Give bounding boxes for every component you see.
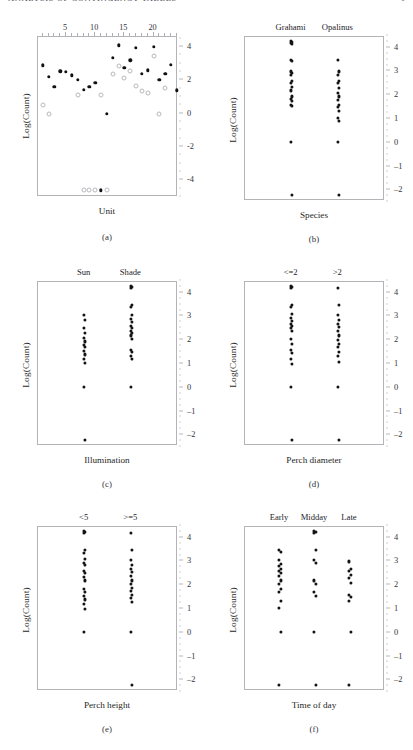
data-point — [336, 140, 339, 143]
y-minor-tick — [179, 524, 181, 525]
y-tick-label: –2 — [394, 430, 402, 439]
data-point — [84, 318, 87, 321]
data-point — [145, 90, 150, 95]
y-minor-tick — [386, 446, 388, 447]
data-point — [348, 684, 351, 687]
y-minor-tick — [179, 62, 181, 63]
data-point — [337, 360, 340, 363]
panel-row-1: 5101520 420-2-4 Log(Count) Unit (a) Grah… — [0, 10, 413, 255]
data-point — [47, 75, 50, 78]
panel-cell-e: <5>=5 43210–1–2 Log(Count) Perch height … — [0, 500, 206, 745]
plot-area-a — [37, 36, 177, 196]
y-minor-tick — [386, 404, 388, 405]
y-tick-mark — [179, 536, 183, 537]
data-point — [87, 188, 92, 193]
y-minor-tick — [386, 351, 388, 352]
y-minor-tick — [179, 309, 181, 310]
y-minor-tick — [386, 64, 388, 65]
data-point — [117, 44, 120, 47]
x-tick-mark — [147, 33, 148, 36]
y-minor-tick — [386, 613, 388, 614]
data-point — [70, 74, 73, 77]
data-point — [128, 69, 133, 74]
y-minor-tick — [386, 195, 388, 196]
x-tick-mark — [106, 33, 107, 36]
y-minor-tick — [386, 106, 388, 107]
x-tick-mark — [153, 32, 154, 36]
y-minor-tick — [179, 619, 181, 620]
data-point — [146, 69, 149, 72]
data-point — [291, 104, 294, 107]
y-minor-tick — [386, 625, 388, 626]
y-tick-label: 2 — [394, 90, 398, 99]
data-point — [84, 607, 87, 610]
y-minor-tick — [179, 643, 181, 644]
top-labels-b: GrahamiOpalinus — [244, 22, 384, 35]
x-tick-mark — [48, 33, 49, 36]
y-tick-label: 4 — [394, 532, 398, 541]
y-tick-label: 1 — [187, 604, 191, 613]
y-minor-tick — [179, 279, 181, 280]
y-minor-tick — [386, 333, 388, 334]
data-point — [279, 550, 282, 553]
data-point — [130, 684, 133, 687]
data-point — [75, 92, 80, 97]
y-minor-tick — [179, 54, 181, 55]
plot-area-b — [244, 36, 384, 200]
x-tick-label: 20 — [148, 23, 156, 32]
y-tick-label: 2 — [187, 335, 191, 344]
x-tick-mark — [112, 33, 113, 36]
y-minor-tick — [179, 673, 181, 674]
data-point — [290, 89, 293, 92]
y-tick-mark — [179, 608, 183, 609]
data-point — [82, 88, 85, 91]
x-axis-label-a: Unit — [37, 206, 177, 216]
y-tick-labels-d: 43210–1–2 — [386, 281, 412, 445]
x-tick-mark — [53, 33, 54, 36]
y-minor-tick — [386, 52, 388, 53]
y-minor-tick — [179, 691, 181, 692]
y-tick-label: 4 — [187, 287, 191, 296]
y-minor-tick — [179, 530, 181, 531]
y-tick-mark — [386, 679, 390, 680]
y-tick-mark — [179, 315, 183, 316]
y-minor-tick — [386, 667, 388, 668]
data-point — [130, 337, 133, 340]
y-tick-labels-f: 43210–1–2 — [386, 526, 412, 690]
x-tick-mark — [100, 33, 101, 36]
y-tick-mark — [179, 112, 183, 113]
data-point — [337, 334, 340, 337]
data-point — [134, 46, 137, 49]
plot-area-c — [37, 281, 177, 445]
x-tick-label: 15 — [119, 23, 127, 32]
y-axis-label-d: Log(Count) — [228, 285, 242, 445]
category-label: <5 — [79, 512, 88, 522]
data-point — [151, 54, 156, 59]
y-minor-tick — [179, 416, 181, 417]
y-tick-label: 1 — [187, 359, 191, 368]
y-minor-tick — [386, 171, 388, 172]
data-point — [130, 548, 133, 551]
y-axis-label-f: Log(Count) — [228, 530, 242, 690]
y-minor-tick — [179, 368, 181, 369]
running-head-title: ANALYSIS OF CONTINGENCY TABLES — [8, 0, 177, 3]
y-minor-tick — [386, 554, 388, 555]
data-point — [278, 591, 281, 594]
y-tick-mark — [179, 363, 183, 364]
panel-cell-b: GrahamiOpalinus 43210–1–2 Log(Count) Spe… — [207, 10, 413, 255]
y-tick-mark — [386, 141, 390, 142]
y-minor-tick — [179, 154, 181, 155]
y-axis-label-b: Log(Count) — [228, 40, 242, 200]
y-tick-label: –2 — [394, 185, 402, 194]
y-tick-label: –2 — [187, 675, 195, 684]
y-tick-label: –1 — [187, 651, 195, 660]
data-point — [84, 332, 87, 335]
y-minor-tick — [179, 297, 181, 298]
panel-caption-c: (c) — [37, 479, 177, 489]
y-minor-tick — [179, 613, 181, 614]
x-tick-mark — [65, 32, 66, 36]
y-tick-labels-a: 420-2-4 — [179, 36, 205, 196]
y-tick-label: 4 — [187, 532, 191, 541]
y-minor-tick — [179, 440, 181, 441]
y-tick-label: –1 — [394, 406, 402, 415]
